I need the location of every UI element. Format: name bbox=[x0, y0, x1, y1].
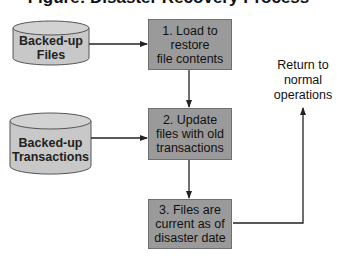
step-line: 2. Update bbox=[156, 113, 224, 127]
label-line: Transactions bbox=[12, 150, 89, 164]
arrow-step3-to-return bbox=[233, 108, 303, 223]
step-line: 1. Load to bbox=[157, 24, 224, 38]
outcome-line: operations bbox=[258, 88, 337, 103]
return-to-normal-label: Return to normal operations bbox=[258, 58, 337, 103]
step-line: 3. Files are bbox=[154, 203, 226, 217]
step-line: disaster date bbox=[154, 231, 226, 245]
outcome-line: normal bbox=[258, 73, 337, 88]
step-2-box: 2. Update files with old transactions bbox=[148, 108, 232, 160]
step-line: transactions bbox=[156, 141, 224, 155]
step-line: restore bbox=[157, 38, 224, 52]
step-line: current as of bbox=[154, 217, 226, 231]
outcome-line: Return to bbox=[258, 58, 337, 73]
label-line: Backed-up bbox=[19, 34, 83, 48]
step-1-box: 1. Load to restore file contents bbox=[148, 19, 232, 70]
label-line: Backed-up bbox=[19, 136, 83, 150]
step-line: files with old bbox=[156, 127, 224, 141]
step-line: file contents bbox=[157, 52, 224, 66]
source-files-label: Backed-up Files bbox=[13, 34, 89, 62]
step-3-box: 3. Files are current as of disaster date bbox=[148, 199, 232, 249]
source-transactions-label: Backed-up Transactions bbox=[10, 135, 91, 165]
label-line: Files bbox=[37, 48, 66, 62]
